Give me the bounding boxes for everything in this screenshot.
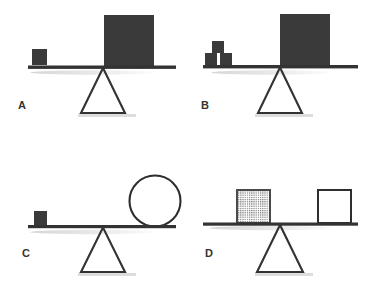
panel-b: B [183,0,366,144]
large-dark-square [104,15,154,67]
small-dark-square [32,49,47,65]
cluster-square-bottom-right [220,53,232,65]
large-dark-square [280,14,330,66]
cluster-square-bottom-left [205,53,217,65]
open-white-square [318,190,351,223]
fulcrum-shadow [78,114,136,117]
fulcrum-triangle [81,68,125,113]
fulcrum-shadow [255,273,313,276]
small-dark-square [34,211,47,225]
fulcrum-triangle [257,225,303,272]
hatched-square [237,190,270,223]
panel-label-a: A [18,100,26,111]
fulcrum-shadow [255,114,313,117]
panel-label-b: B [201,100,209,111]
small-dark-square-cluster [205,41,232,65]
panel-d: D [183,144,366,288]
panel-c: C [0,144,183,288]
panel-d-diagram [183,144,366,288]
beam-shadow [211,70,331,74]
beam-shadow [30,230,154,234]
large-open-circle [130,176,181,227]
cluster-square-top [212,41,224,53]
panel-label-d: D [205,248,213,259]
beam-shadow [209,226,333,230]
panel-a: A [0,0,183,144]
panel-a-diagram [0,0,183,144]
fulcrum-shadow [78,273,136,276]
beam-shadow [30,70,154,74]
panel-label-c: C [22,248,30,259]
panel-c-diagram [0,144,183,288]
balance-scale-figure: A B [0,0,366,288]
panel-b-diagram [183,0,366,144]
